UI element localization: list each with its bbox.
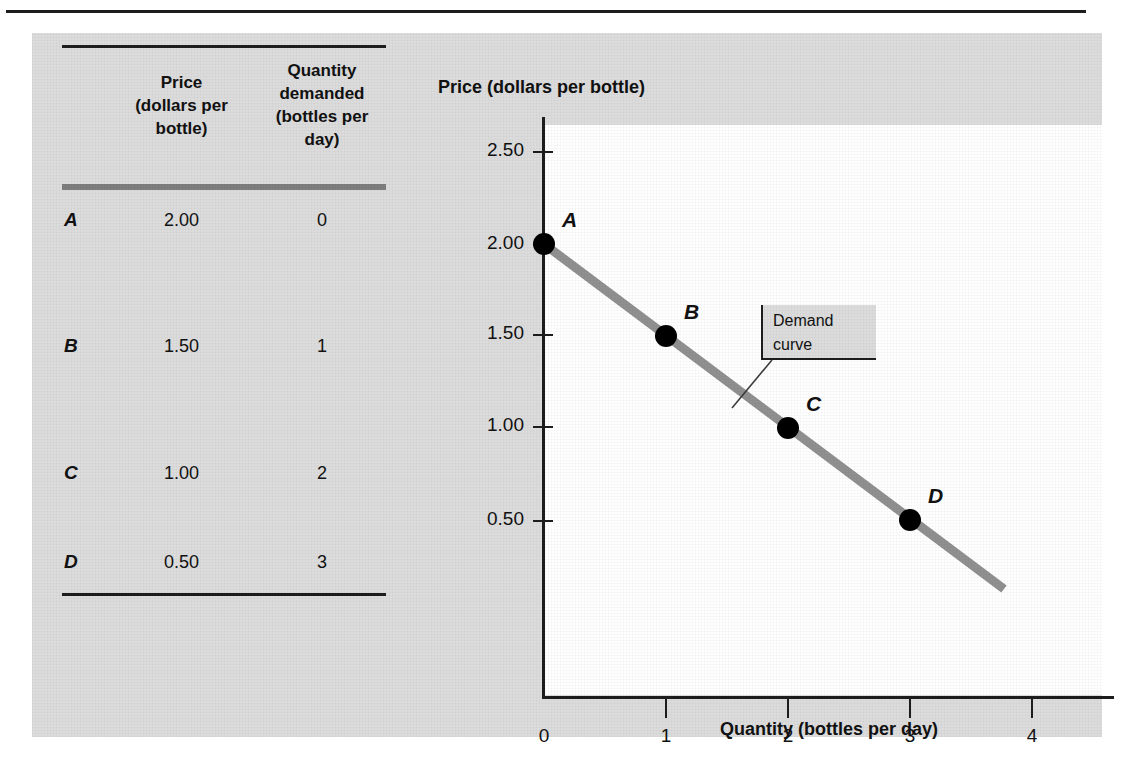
table-row: C 1.00 2	[62, 462, 386, 490]
row-quantity: 2	[258, 463, 386, 484]
column-header-price-line1: Price	[114, 71, 249, 94]
demand-curve-svg	[420, 53, 1100, 743]
row-letter: A	[64, 209, 100, 231]
data-point-c	[777, 417, 799, 439]
column-header-quantity-line2: demanded	[258, 82, 386, 105]
column-header-quantity-line1: Quantity	[258, 59, 386, 82]
column-header-quantity-line4: day)	[258, 128, 386, 151]
row-letter: D	[64, 551, 100, 573]
demand-schedule-table: Price (dollars per bottle) Quantity dema…	[62, 45, 417, 625]
row-price: 1.00	[114, 463, 249, 484]
callout-line2: curve	[773, 333, 876, 357]
row-letter: B	[64, 335, 100, 357]
column-header-price-line2: (dollars per	[114, 94, 249, 117]
demand-curve-line	[544, 244, 1004, 589]
table-rule-header	[62, 184, 386, 190]
top-divider-rule	[6, 10, 1086, 13]
table-row: B 1.50 1	[62, 335, 386, 363]
demand-curve-chart: Price (dollars per bottle) 2.50 2.00 1.5…	[420, 53, 1100, 743]
row-quantity: 0	[258, 210, 386, 231]
callout-line1: Demand	[773, 309, 876, 333]
data-point-label-a: A	[562, 208, 577, 232]
row-price: 1.50	[114, 336, 249, 357]
data-point-label-d: D	[928, 484, 943, 508]
table-rule-top	[62, 45, 386, 48]
x-axis-title: Quantity (bottles per day)	[720, 719, 938, 740]
data-point-b	[655, 325, 677, 347]
data-point-label-c: C	[806, 392, 821, 416]
figure-panel: Price (dollars per bottle) Quantity dema…	[32, 33, 1102, 737]
table-header-row: Price (dollars per bottle) Quantity dema…	[62, 59, 386, 181]
column-header-price: Price (dollars per bottle)	[114, 71, 249, 140]
data-point-d	[899, 509, 921, 531]
table-row: D 0.50 3	[62, 551, 386, 579]
row-letter: C	[64, 462, 100, 484]
column-header-quantity-line3: (bottles per	[258, 105, 386, 128]
table-rule-bottom	[62, 593, 386, 596]
row-quantity: 3	[258, 552, 386, 573]
figure-container: Price (dollars per bottle) Quantity dema…	[0, 0, 1135, 767]
column-header-price-line3: bottle)	[114, 117, 249, 140]
data-point-a	[533, 233, 555, 255]
row-quantity: 1	[258, 336, 386, 357]
data-point-label-b: B	[684, 300, 699, 324]
table-row: A 2.00 0	[62, 209, 386, 237]
row-price: 0.50	[114, 552, 249, 573]
row-price: 2.00	[114, 210, 249, 231]
demand-curve-callout: Demand curve	[761, 305, 876, 360]
column-header-quantity-demanded: Quantity demanded (bottles per day)	[258, 59, 386, 151]
